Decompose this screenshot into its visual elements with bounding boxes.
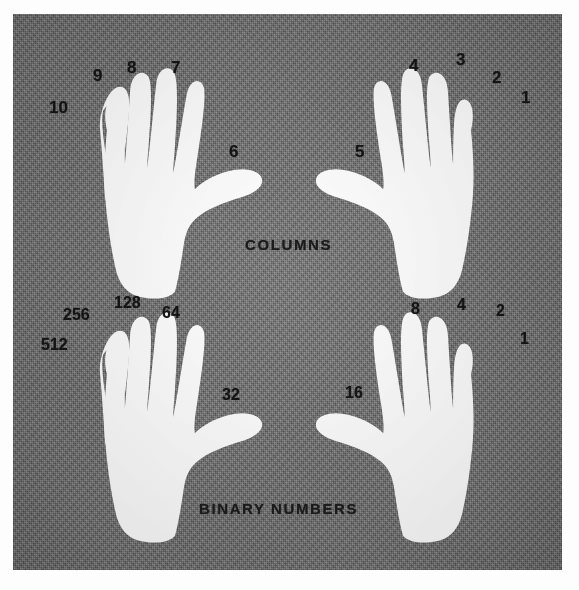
label-br-little: 1 <box>520 330 529 348</box>
photograph-plate: 10 9 8 7 6 5 4 3 2 1 COLUMNS 512 256 128… <box>13 14 562 570</box>
hand-top-left <box>100 68 262 298</box>
label-bl-little: 512 <box>41 336 68 354</box>
caption-columns: COLUMNS <box>245 236 332 253</box>
label-tl-index: 7 <box>171 58 180 78</box>
hands-layer <box>13 14 562 570</box>
label-tl-middle: 8 <box>127 58 136 78</box>
label-tr-index: 4 <box>409 56 418 76</box>
label-tr-thumb: 5 <box>355 142 364 162</box>
hand-top-right <box>316 68 474 298</box>
label-br-index: 8 <box>411 300 420 318</box>
label-tl-ring: 9 <box>93 66 102 86</box>
caption-binary-numbers: BINARY NUMBERS <box>199 500 358 517</box>
label-bl-middle: 128 <box>114 294 141 312</box>
label-tl-little: 10 <box>49 98 68 118</box>
figure-page: 10 9 8 7 6 5 4 3 2 1 COLUMNS 512 256 128… <box>0 0 579 590</box>
label-br-middle: 4 <box>457 296 466 314</box>
label-bl-index: 64 <box>162 304 180 322</box>
label-tr-middle: 3 <box>456 50 465 70</box>
label-br-ring: 2 <box>496 302 505 320</box>
label-tl-thumb: 6 <box>229 142 238 162</box>
label-tr-little: 1 <box>521 88 530 108</box>
label-tr-ring: 2 <box>492 68 501 88</box>
label-br-thumb: 16 <box>345 384 363 402</box>
label-bl-ring: 256 <box>63 306 90 324</box>
label-bl-thumb: 32 <box>222 386 240 404</box>
